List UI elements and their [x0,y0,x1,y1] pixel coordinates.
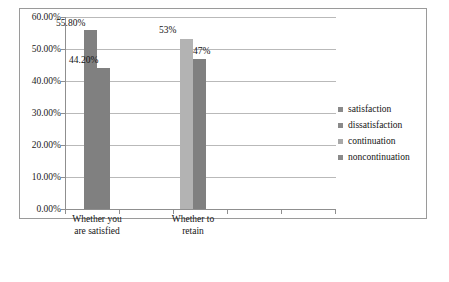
x-category-label-satisfied-line2: are satisfied [56,226,138,238]
x-axis-line [65,209,336,210]
bar-label-dissatisfaction: 44.20% [69,55,98,66]
legend-swatch-satisfaction [338,107,343,112]
chart-legend: satisfaction dissatisfaction continuatio… [338,101,426,165]
y-tick-mark-10 [61,177,66,178]
legend-swatch-continuation [338,139,343,144]
bar-dissatisfaction-satisfied [97,68,110,209]
legend-label-satisfaction: satisfaction [348,104,391,115]
x-category-label-satisfied-line1: Whether you [56,214,138,226]
legend-item-dissatisfaction[interactable]: dissatisfaction [338,117,426,133]
legend-item-noncontinuation[interactable]: noncontinuation [338,149,426,165]
y-tick-mark-40 [61,81,66,82]
y-tick-label-20: 20.00% [32,140,61,150]
y-tick-label-30: 30.00% [32,108,61,118]
y-tick-label-10: 10.00% [32,172,61,182]
y-tick-label-40: 40.00% [32,76,61,86]
x-tick-mark-5 [335,209,336,214]
legend-label-noncontinuation: noncontinuation [348,152,410,163]
legend-label-continuation: continuation [348,136,396,147]
legend-item-continuation[interactable]: continuation [338,133,426,149]
bar-continuation-retain [180,39,193,209]
bar-label-satisfaction: 55.80% [56,18,85,29]
y-tick-label-0: 0.00% [36,204,61,214]
x-category-label-retain-line2: retain [154,226,232,238]
legend-swatch-noncontinuation [338,155,343,160]
x-category-label-retain: Whether to retain [154,214,232,237]
bar-label-continuation: 53% [159,25,176,36]
y-tick-mark-30 [61,113,66,114]
x-tick-mark-4 [281,209,282,214]
legend-item-satisfaction[interactable]: satisfaction [338,101,426,117]
y-tick-mark-20 [61,145,66,146]
y-tick-mark-50 [61,49,66,50]
gridline-60 [65,17,336,18]
bar-label-noncontinuation: 47% [193,46,210,57]
x-category-label-satisfied: Whether you are satisfied [56,214,138,237]
x-category-label-retain-line1: Whether to [154,214,232,226]
legend-swatch-dissatisfaction [338,123,343,128]
chart-frame: 60.00% 50.00% 40.00% 30.00% 20.00% 10.00… [19,8,427,219]
bar-noncontinuation-retain [193,59,206,209]
y-tick-label-50: 50.00% [32,44,61,54]
legend-label-dissatisfaction: dissatisfaction [348,120,402,131]
